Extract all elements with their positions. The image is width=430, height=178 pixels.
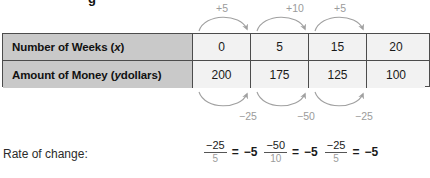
row-header-money-suffix: dollars)	[121, 69, 162, 81]
top-arrow-2	[257, 17, 305, 31]
rate-expression-1: −25 5 = −5	[204, 140, 257, 164]
top-arrow-label-3: +5	[334, 2, 346, 14]
bottom-arrow-label-2: −50	[297, 110, 315, 122]
table-cell-x-1: 0	[193, 34, 251, 60]
table-cell-x-4: 20	[367, 34, 425, 60]
row-header-weeks-prefix: Number of Weeks (	[12, 41, 114, 53]
bottom-arrow-2	[257, 92, 305, 106]
rate-of-change-expressions: −25 5 = −5 −50 10 = −5 −25 5 = −5	[204, 140, 378, 164]
data-table: Number of Weeks (x) 0 5 15 20 Amount of …	[2, 33, 430, 87]
table-cell-y-1: 200	[193, 61, 251, 88]
fraction-3-numerator: −25	[325, 140, 348, 152]
top-arrow-label-2: +10	[286, 2, 304, 14]
top-arrow-1	[199, 17, 247, 31]
fraction-3-denominator: 5	[333, 153, 339, 164]
table-cell-y-4: 100	[367, 61, 425, 88]
bottom-arrow-group	[199, 92, 363, 106]
bottom-arrow-3	[315, 92, 363, 106]
fraction-3: −25 5	[325, 140, 348, 164]
clipped-title-text: g	[88, 0, 96, 6]
table-cell-x-2: 5	[251, 34, 309, 60]
rate-value-3: −5	[364, 145, 378, 159]
top-arrow-group	[199, 17, 363, 31]
equals-sign-1: =	[232, 145, 239, 159]
bottom-arrow-1	[199, 92, 247, 106]
row-header-money: Amount of Money (y dollars)	[3, 61, 193, 88]
fraction-2-numerator: −50	[264, 140, 287, 152]
fraction-1: −25 5	[204, 140, 227, 164]
table-row: Number of Weeks (x) 0 5 15 20	[3, 34, 429, 61]
row-header-weeks-suffix: )	[121, 41, 125, 53]
row-header-weeks: Number of Weeks (x)	[3, 34, 193, 60]
fraction-2: −50 10	[264, 140, 287, 164]
bottom-arrow-label-3: −25	[355, 110, 373, 122]
rate-value-1: −5	[244, 145, 258, 159]
equals-sign-3: =	[352, 145, 359, 159]
table-cell-y-3: 125	[309, 61, 367, 88]
table-cell-x-3: 15	[309, 34, 367, 60]
fraction-1-denominator: 5	[213, 153, 219, 164]
row-header-money-prefix: Amount of Money (	[12, 69, 114, 81]
table-row: Amount of Money (y dollars) 200 175 125 …	[3, 61, 429, 88]
rate-expression-2: −50 10 = −5	[264, 140, 317, 164]
bottom-arrow-label-1: −25	[239, 110, 257, 122]
table-cell-y-2: 175	[251, 61, 309, 88]
top-arrow-3	[315, 17, 363, 31]
equals-sign-2: =	[292, 145, 299, 159]
fraction-1-numerator: −25	[204, 140, 227, 152]
rate-expression-3: −25 5 = −5	[325, 140, 378, 164]
rate-value-2: −5	[304, 145, 318, 159]
rate-of-change-label: Rate of change:	[3, 147, 88, 161]
fraction-2-denominator: 10	[270, 153, 281, 164]
top-arrow-label-1: +5	[216, 2, 228, 14]
